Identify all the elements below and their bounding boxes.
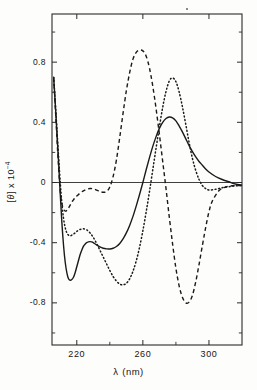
y-tick-label: 0.4 xyxy=(8,117,46,127)
dashed-curve xyxy=(54,50,242,303)
dotted-curve xyxy=(54,77,242,285)
x-tick-label: 260 xyxy=(125,349,161,359)
x-axis-label-symbol: λ xyxy=(113,366,119,377)
solid-curve xyxy=(54,77,242,280)
x-tick-label: 220 xyxy=(59,349,95,359)
cd-spectrum-figure: 0.80.40-0.4-0.8 220260300 [θ] x 10−4 λ (… xyxy=(0,0,257,390)
scan-speck xyxy=(186,8,188,10)
y-tick-label: -0.4 xyxy=(8,237,46,247)
axis-ticks xyxy=(52,14,242,345)
y-tick-label: -0.8 xyxy=(8,297,46,307)
y-axis-label: [θ] x 10−4 xyxy=(4,146,16,218)
x-axis-label: λ (nm) xyxy=(0,366,257,377)
y-tick-label: 0.8 xyxy=(8,57,46,67)
x-axis-label-unit: (nm) xyxy=(122,366,144,377)
x-tick-label: 300 xyxy=(191,349,227,359)
plot-frame xyxy=(52,14,242,345)
y-axis-label-text: [θ] x 10−4 xyxy=(6,162,16,203)
data-curves xyxy=(54,50,242,303)
